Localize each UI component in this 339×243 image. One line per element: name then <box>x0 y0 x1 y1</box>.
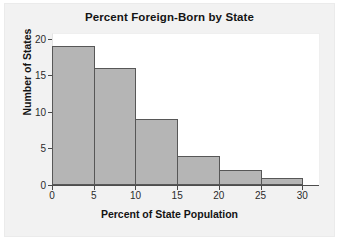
y-tick-label-0: 0 <box>0 180 46 191</box>
y-tick-label-1: 5 <box>0 143 46 154</box>
x-tick-label-0: 0 <box>37 190 67 201</box>
y-tick-label-4: 20 <box>0 33 46 44</box>
x-tick-mark-5 <box>261 186 262 190</box>
x-tick-mark-0 <box>52 186 53 190</box>
x-axis-title: Percent of State Population <box>0 208 339 220</box>
x-tick-mark-6 <box>302 186 303 190</box>
x-tick-mark-4 <box>219 186 220 190</box>
x-axis-line <box>52 185 319 186</box>
histogram-bar <box>219 170 262 185</box>
x-tick-label-6: 30 <box>287 190 317 201</box>
chart-title: Percent Foreign-Born by State <box>0 11 339 23</box>
histogram-bar <box>135 119 178 185</box>
histogram-bar <box>261 178 304 185</box>
x-tick-mark-1 <box>94 186 95 190</box>
x-tick-mark-3 <box>177 186 178 190</box>
x-tick-label-3: 15 <box>162 190 192 201</box>
x-tick-label-4: 20 <box>204 190 234 201</box>
histogram-bar <box>177 156 220 185</box>
x-tick-label-1: 5 <box>79 190 109 201</box>
y-tick-label-2: 10 <box>0 106 46 117</box>
x-tick-label-2: 10 <box>120 190 150 201</box>
histogram-figure: Percent Foreign-Born by State Number of … <box>0 0 339 243</box>
x-tick-label-5: 25 <box>246 190 276 201</box>
y-tick-mark-4 <box>48 39 52 40</box>
histogram-bar <box>52 46 95 185</box>
y-tick-label-3: 15 <box>0 70 46 81</box>
x-tick-mark-2 <box>135 186 136 190</box>
histogram-bar <box>94 68 137 185</box>
